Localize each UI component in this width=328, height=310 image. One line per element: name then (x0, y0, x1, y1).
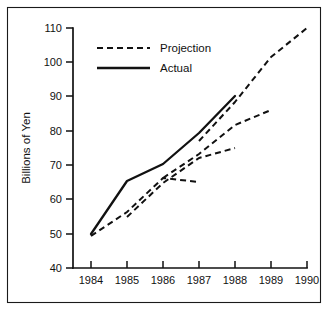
y-tick-label-80: 80 (50, 125, 62, 137)
x-tick-label-1989: 1989 (259, 274, 283, 286)
y-tick-label-70: 70 (50, 159, 62, 171)
legend-label-actual: Actual (160, 62, 192, 74)
x-tick-label-1987: 1987 (187, 274, 211, 286)
x-tick-label-1990: 1990 (295, 274, 319, 286)
x-tick-label-1988: 1988 (223, 274, 247, 286)
y-tick-label-90: 90 (50, 90, 62, 102)
x-tick-label-1984: 1984 (79, 274, 103, 286)
y-tick-label-50: 50 (50, 228, 62, 240)
y-tick-label-110: 110 (44, 22, 62, 34)
x-tick-label-1986: 1986 (151, 274, 175, 286)
y-axis-title: Billions of Yen (20, 112, 32, 184)
y-tick-label-40: 40 (50, 262, 62, 274)
legend-label-projection: Projection (160, 42, 211, 54)
line-chart-canvas: 110 100 90 80 70 60 50 40 1984 1985 1986… (0, 0, 328, 310)
x-tick-label-1985: 1985 (115, 274, 139, 286)
y-tick-label-100: 100 (44, 56, 62, 68)
chart-figure: 110 100 90 80 70 60 50 40 1984 1985 1986… (0, 0, 328, 310)
y-tick-label-60: 60 (50, 193, 62, 205)
